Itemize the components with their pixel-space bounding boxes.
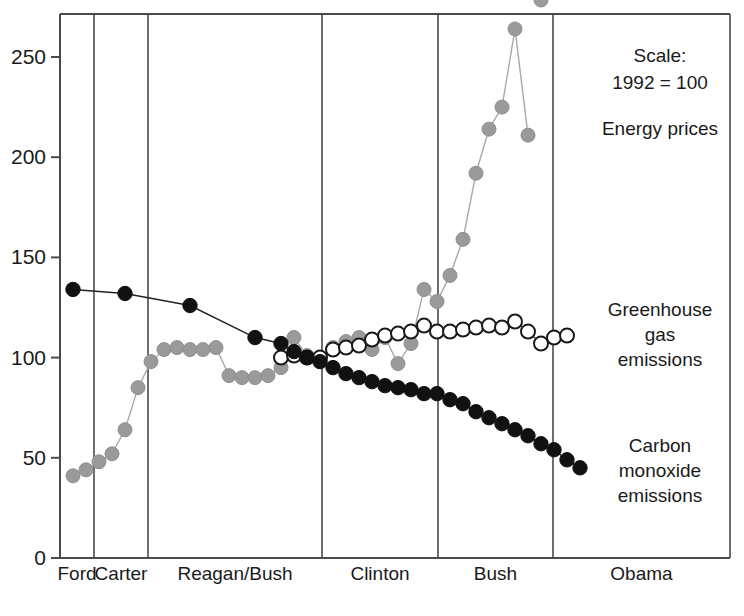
data-point [287, 331, 301, 345]
data-point [443, 325, 457, 339]
carbon-monoxide-label: Carbonmonoxideemissions [618, 435, 702, 506]
data-point [92, 455, 106, 469]
data-point [378, 329, 392, 343]
y-tick-label: 150 [11, 245, 46, 268]
data-point [105, 447, 119, 461]
x-category-label-carter: Carter [95, 563, 148, 584]
data-point [144, 355, 158, 369]
data-point [131, 381, 145, 395]
data-point [339, 366, 353, 380]
data-point [534, 0, 548, 7]
data-point [118, 286, 132, 300]
data-point [365, 374, 379, 388]
y-axis-ticks: 250200150100500 [11, 45, 60, 569]
data-point [469, 405, 483, 419]
data-point [508, 22, 522, 36]
data-point [495, 321, 509, 335]
x-axis-category-labels: FordCarterReagan/BushClintonBushObama [57, 563, 673, 584]
data-point [417, 282, 431, 296]
data-point [222, 369, 236, 383]
data-point [352, 339, 366, 353]
data-point [456, 323, 470, 337]
y-tick-label: 0 [34, 546, 46, 569]
x-category-label-bush: Bush [474, 563, 517, 584]
data-point [248, 371, 262, 385]
data-point [313, 354, 327, 368]
series-annotations: Energy pricesGreenhousegasemissionsCarbo… [602, 118, 718, 506]
data-point [157, 343, 171, 357]
data-point [183, 298, 197, 312]
data-point [248, 330, 262, 344]
chart-container: 250200150100500 FordCarterReagan/BushCli… [0, 0, 744, 616]
data-point [365, 333, 379, 347]
data-point [261, 369, 275, 383]
data-point [508, 315, 522, 329]
data-point [482, 411, 496, 425]
data-point [274, 351, 288, 365]
data-point [300, 350, 314, 364]
data-point [469, 166, 483, 180]
data-point [274, 336, 288, 350]
data-point [391, 380, 405, 394]
data-point [404, 382, 418, 396]
data-point [209, 341, 223, 355]
x-category-label-clinton: Clinton [350, 563, 409, 584]
data-point [235, 371, 249, 385]
data-point [534, 337, 548, 351]
data-point [391, 357, 405, 371]
data-point [534, 437, 548, 451]
data-point [326, 360, 340, 374]
data-point [469, 321, 483, 335]
x-category-label-reagan-bush: Reagan/Bush [177, 563, 292, 584]
data-point [326, 343, 340, 357]
data-point [495, 417, 509, 431]
data-point [560, 453, 574, 467]
data-point [339, 341, 353, 355]
data-point [352, 370, 366, 384]
data-point [547, 331, 561, 345]
data-point [183, 343, 197, 357]
scale-note: Scale:1992 = 100 [612, 45, 708, 93]
data-point [79, 463, 93, 477]
data-point [118, 423, 132, 437]
x-category-label-ford: Ford [57, 563, 96, 584]
data-point [404, 325, 418, 339]
data-point [547, 443, 561, 457]
data-point [456, 232, 470, 246]
data-point [170, 341, 184, 355]
energy-prices-label: Energy prices [602, 118, 718, 139]
data-point [417, 386, 431, 400]
data-point [456, 396, 470, 410]
data-point [508, 423, 522, 437]
data-point [521, 128, 535, 142]
data-point [482, 319, 496, 333]
data-point [66, 282, 80, 296]
data-point [66, 469, 80, 483]
data-point [495, 100, 509, 114]
scale-note-text: Scale:1992 = 100 [612, 45, 708, 93]
data-point [521, 325, 535, 339]
data-series-group [66, 0, 587, 483]
data-point [417, 319, 431, 333]
data-point [196, 343, 210, 357]
series-line [73, 289, 580, 467]
data-point [443, 392, 457, 406]
y-tick-label: 50 [23, 446, 46, 469]
y-tick-label: 100 [11, 346, 46, 369]
data-point [430, 386, 444, 400]
data-point [482, 122, 496, 136]
x-category-label-obama: Obama [610, 563, 673, 584]
data-point [430, 325, 444, 339]
greenhouse-label: Greenhousegasemissions [608, 299, 713, 370]
chart-svg: 250200150100500 FordCarterReagan/BushCli… [0, 0, 744, 616]
data-point [430, 294, 444, 308]
data-point [443, 268, 457, 282]
data-point [560, 329, 574, 343]
data-point [521, 429, 535, 443]
data-point [391, 327, 405, 341]
y-tick-label: 200 [11, 145, 46, 168]
data-point [573, 461, 587, 475]
data-point [287, 344, 301, 358]
data-point [378, 378, 392, 392]
y-tick-label: 250 [11, 45, 46, 68]
